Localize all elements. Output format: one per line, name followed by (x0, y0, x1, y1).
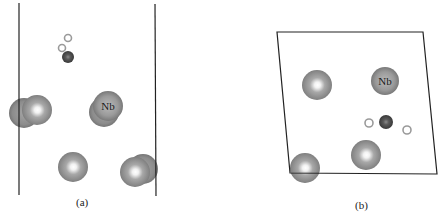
metal-atom (58, 152, 88, 182)
structure-figure: Nb Nb (0, 0, 444, 220)
caption-a: (a) (76, 196, 88, 208)
small-dark-atom (379, 115, 393, 129)
metal-atom (302, 70, 332, 100)
metal-atom (351, 140, 381, 170)
small-ring-atom (65, 35, 72, 42)
metal-atom (22, 95, 52, 125)
metal-atom (120, 157, 150, 187)
small-dark-atom (62, 51, 74, 63)
panel-a: Nb (9, 3, 158, 196)
nb-label: Nb (101, 100, 115, 112)
panel-b: Nb (277, 32, 437, 183)
caption-b: (b) (355, 199, 368, 211)
metal-atom (290, 153, 320, 183)
small-ring-atom (365, 119, 373, 127)
small-ring-atom (59, 45, 66, 52)
nb-label: Nb (378, 75, 392, 87)
small-ring-atom (403, 126, 411, 134)
